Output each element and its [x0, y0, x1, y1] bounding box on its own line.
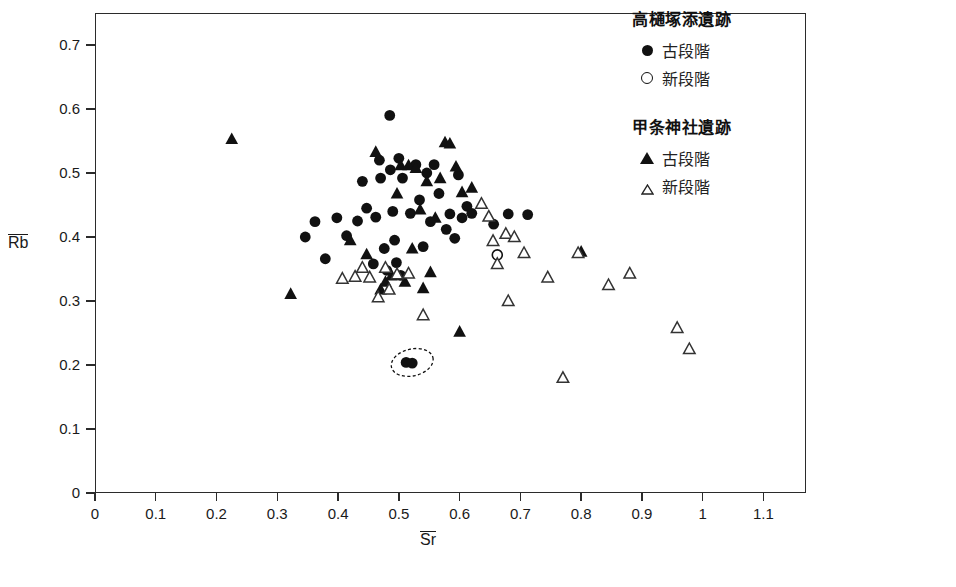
data-point: [417, 309, 429, 320]
data-point: [417, 282, 430, 294]
x-tick-label: 0.1: [126, 505, 186, 522]
x-tick-label: 0.2: [187, 505, 247, 522]
y-tick: [86, 44, 95, 45]
legend-item[interactable]: 新段階: [632, 64, 952, 92]
data-point: [457, 212, 468, 223]
open-circle-icon: [641, 72, 653, 84]
y-tick-label: 0.6: [22, 100, 80, 117]
data-point: [337, 273, 349, 284]
data-point: [624, 267, 636, 278]
y-tick-label: 0.3: [22, 292, 80, 309]
data-point: [603, 279, 615, 290]
y-tick: [86, 364, 95, 365]
data-point: [483, 211, 495, 222]
data-point: [368, 258, 379, 269]
data-point: [449, 233, 460, 244]
x-tick: [641, 493, 642, 501]
legend-item-label: 古段階: [662, 146, 710, 170]
x-tick-label: 0.8: [551, 505, 611, 522]
data-point: [331, 212, 342, 223]
data-point: [424, 266, 437, 278]
x-tick-label: 0.5: [369, 505, 429, 522]
x-tick-label: 0.6: [430, 505, 490, 522]
data-point: [557, 372, 569, 383]
x-tick-label: 1: [673, 505, 733, 522]
data-point: [360, 248, 373, 260]
y-tick-label: 0.7: [22, 36, 80, 53]
data-point: [441, 224, 452, 235]
data-point: [379, 243, 390, 254]
y-tick: [86, 428, 95, 429]
x-tick: [763, 493, 764, 501]
series-2: [225, 132, 587, 336]
data-point: [444, 209, 455, 220]
y-tick-label: 0: [22, 484, 80, 501]
data-point: [414, 203, 427, 215]
data-point: [225, 132, 238, 144]
data-point: [465, 181, 478, 193]
filled-triangle-icon: [640, 152, 654, 164]
data-point: [370, 212, 381, 223]
data-point: [405, 208, 416, 219]
data-point: [518, 247, 530, 258]
data-point: [414, 194, 425, 205]
figure-root: 00.10.20.30.40.50.60.70.80.911.100.10.20…: [0, 0, 956, 587]
x-tick-label: 1.1: [733, 505, 793, 522]
data-point: [450, 160, 463, 172]
legend-item[interactable]: 古段階: [632, 144, 952, 172]
data-point: [502, 295, 514, 306]
data-point: [466, 208, 477, 219]
x-tick: [216, 493, 217, 501]
x-axis-title: Sr: [420, 531, 436, 549]
legend-symbol: [632, 181, 662, 192]
legend-item[interactable]: 新段階: [632, 172, 952, 200]
data-point: [671, 322, 683, 333]
data-point: [406, 242, 419, 254]
data-point: [434, 188, 445, 199]
x-tick-label: 0.3: [247, 505, 307, 522]
x-tick-label: 0.4: [308, 505, 368, 522]
x-axis-title-text: Sr: [420, 531, 436, 549]
series-0: [300, 110, 533, 368]
data-point: [487, 235, 499, 246]
x-tick: [337, 493, 338, 501]
series-3: [337, 198, 696, 383]
data-point: [284, 287, 297, 299]
legend-item-label: 新段階: [662, 66, 710, 90]
data-point: [387, 206, 398, 217]
data-point: [522, 209, 533, 220]
filled-circle-icon: [642, 45, 653, 56]
legend: 高樋塚添遺跡古段階新段階甲条神社遺跡古段階新段階: [632, 6, 952, 200]
data-point: [357, 262, 369, 273]
data-point: [300, 232, 311, 243]
x-tick-label: 0.9: [612, 505, 672, 522]
y-tick: [86, 300, 95, 301]
legend-item-label: 古段階: [662, 38, 710, 62]
data-point: [389, 235, 400, 246]
data-point: [476, 198, 488, 209]
data-point: [357, 176, 368, 187]
data-point: [352, 216, 363, 227]
legend-group-title: 甲条神社遺跡: [632, 114, 952, 138]
y-tick-label: 0.2: [22, 356, 80, 373]
data-point: [503, 209, 514, 220]
data-point: [320, 253, 331, 264]
x-tick: [580, 493, 581, 501]
data-point: [420, 175, 433, 187]
x-tick: [277, 493, 278, 501]
data-point: [391, 187, 404, 199]
x-tick: [702, 493, 703, 501]
legend-item[interactable]: 古段階: [632, 36, 952, 64]
y-tick: [86, 236, 95, 237]
data-point: [397, 173, 408, 184]
y-tick: [86, 108, 95, 109]
legend-group-title: 高樋塚添遺跡: [632, 6, 952, 30]
y-tick-label: 0.4: [22, 228, 80, 245]
data-point: [361, 203, 372, 214]
y-tick-label: 0.1: [22, 420, 80, 437]
data-point: [453, 325, 466, 337]
x-tick: [94, 493, 95, 501]
data-point: [500, 228, 512, 239]
x-tick-label: 0: [65, 505, 125, 522]
x-tick: [520, 493, 521, 501]
